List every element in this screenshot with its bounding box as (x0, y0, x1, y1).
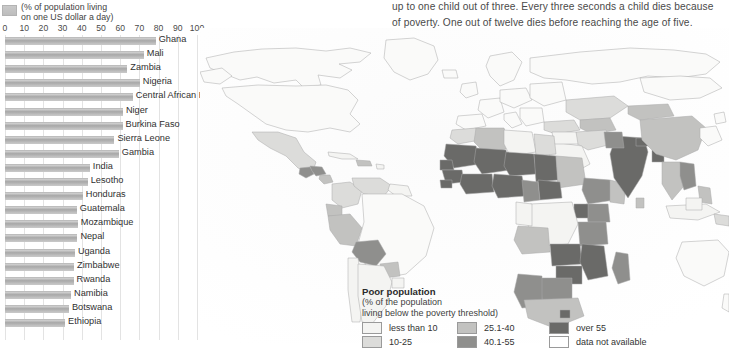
map-country-uganda (574, 204, 588, 218)
chart-subtitle-line-2: on one US dollar a day) (21, 12, 113, 22)
gridline-100 (197, 35, 198, 340)
map-country-sudan (556, 156, 586, 188)
map-country-chad (534, 154, 558, 182)
map-legend-item[interactable]: 40.1-55 (457, 336, 549, 348)
map-country-tanzania (578, 222, 608, 246)
x-tick-10: 10 (19, 23, 29, 33)
bar (5, 164, 90, 172)
map-legend-swatch-icon (457, 336, 477, 348)
bar-row[interactable]: Namibia (5, 289, 197, 303)
bar-row[interactable]: Niger (5, 106, 197, 120)
bar-row[interactable]: Ethiopia (5, 317, 197, 331)
bar (5, 249, 75, 257)
poverty-bar-chart: (% of population living on one US dollar… (0, 0, 232, 343)
bar-label: Guatemala (80, 203, 125, 213)
bar-label: Burkina Faso (126, 119, 180, 129)
bar (5, 234, 77, 242)
map-legend-swatch-icon (549, 336, 569, 348)
chart-subtitle-line-1: (% of population living (21, 2, 113, 12)
bar (5, 291, 71, 299)
map-legend-item[interactable]: 25.1-40 (457, 322, 549, 334)
bar-row[interactable]: India (5, 162, 197, 176)
map-country-car (538, 180, 562, 200)
bar-label: Gambia (122, 147, 154, 157)
map-legend-items: less than 1025.1-40over 5510-2540.1-55da… (362, 321, 692, 349)
bar-label: Ghana (159, 34, 187, 44)
chart-subtitle: (% of population living on one US dollar… (21, 2, 113, 23)
map-country-zambia (550, 244, 582, 266)
bar-row[interactable]: Central African Rep. (5, 91, 197, 105)
map-country-niger (504, 152, 536, 176)
bar-row[interactable]: Burkina Faso (5, 120, 197, 134)
bar-row[interactable]: Rwanda (5, 275, 197, 289)
map-country-ivory-ghana (460, 174, 494, 194)
bar (5, 178, 88, 186)
bar (5, 220, 78, 228)
map-legend-label: over 55 (576, 323, 606, 333)
bar-row[interactable]: Gambia (5, 148, 197, 162)
map-legend-item[interactable]: 10-25 (362, 336, 457, 348)
bar-row[interactable]: Uganda (5, 247, 197, 261)
intro-line-2: up to one child out of three. Every thre… (392, 0, 726, 15)
map-legend-swatch-icon (362, 322, 382, 334)
map-country-ethiopia (582, 178, 614, 204)
map-legend-title: Poor population (362, 286, 692, 297)
bar (5, 37, 156, 45)
bar-row[interactable]: Nepal (5, 232, 197, 246)
bar-label: Lesotho (91, 175, 124, 185)
x-tick-20: 20 (39, 23, 49, 33)
map-country-iraq-syria (552, 132, 578, 144)
bar-label: Mozambique (81, 217, 134, 227)
map-country-borneo (686, 198, 702, 210)
bar (5, 65, 127, 73)
bar-row[interactable]: Honduras (5, 190, 197, 204)
x-tick-60: 60 (115, 23, 125, 33)
bar-row[interactable]: Guatemala (5, 204, 197, 218)
map-legend-swatch-icon (457, 322, 477, 334)
bar-row[interactable]: Zambia (5, 63, 197, 77)
bar-label: Uganda (78, 246, 110, 256)
bar-row[interactable]: Mozambique (5, 218, 197, 232)
chart-header: (% of population living on one US dollar… (2, 2, 217, 23)
x-tick-80: 80 (154, 23, 164, 33)
x-tick-50: 50 (96, 23, 106, 33)
bar (5, 319, 65, 327)
map-legend-subtitle-line-1: (% of the population (362, 297, 692, 308)
bar-row[interactable]: Ghana (5, 35, 197, 49)
bar-row[interactable]: Lesotho (5, 176, 197, 190)
bar (5, 122, 123, 130)
bar (5, 263, 74, 271)
map-legend-item[interactable]: over 55 (549, 322, 692, 334)
bar-row[interactable]: Botswana (5, 303, 197, 317)
map-legend-item[interactable]: data not available (549, 336, 692, 348)
map-country-iceland (442, 70, 458, 78)
map-legend: Poor population (% of the population liv… (362, 286, 692, 349)
bar-row[interactable]: Mali (5, 49, 197, 63)
map-country-senegal-gambia (440, 160, 454, 170)
bar (5, 79, 140, 87)
map-legend-subtitle: (% of the population living below the po… (362, 297, 692, 318)
bar-label: Honduras (86, 189, 126, 199)
x-tick-40: 40 (77, 23, 87, 33)
chart-plot-area: GhanaMaliZambiaNigeriaCentral African Re… (5, 35, 197, 340)
map-country-gabon-congo (516, 202, 532, 226)
bar-label: Sierra Leone (117, 133, 170, 143)
map-country-cameroon (522, 180, 540, 202)
map-legend-label: 10-25 (389, 337, 412, 347)
x-tick-90: 90 (173, 23, 183, 33)
map-country-kenya (586, 204, 610, 222)
x-tick-30: 30 (58, 23, 68, 33)
bar-row[interactable]: Zimbabwe (5, 261, 197, 275)
bar (5, 206, 77, 214)
bar (5, 51, 144, 59)
map-legend-swatch-icon (362, 336, 382, 348)
bar-label: India (93, 161, 113, 171)
bar-row[interactable]: Nigeria (5, 77, 197, 91)
bar-label: Nepal (80, 231, 104, 241)
x-tick-0: 0 (3, 23, 8, 33)
map-country-pakistan (604, 132, 624, 148)
map-legend-label: data not available (576, 337, 647, 347)
map-legend-item[interactable]: less than 10 (362, 322, 457, 334)
bar-row[interactable]: Sierra Leone (5, 134, 197, 148)
bar (5, 93, 133, 101)
